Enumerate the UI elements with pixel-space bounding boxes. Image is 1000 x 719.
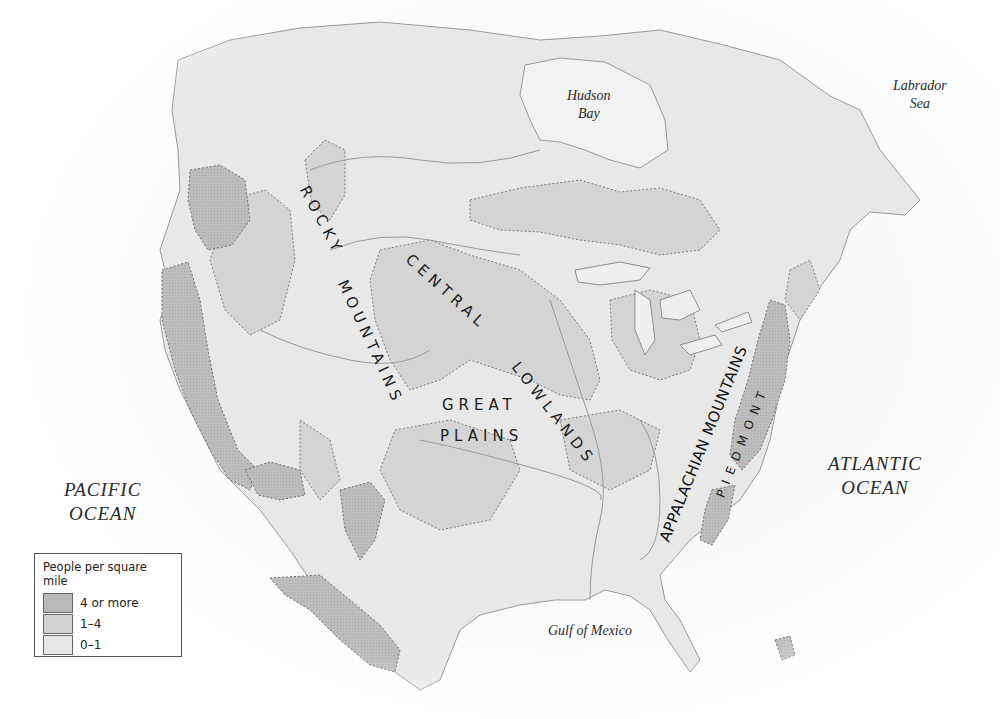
legend-item-medium: 1–4 xyxy=(43,613,173,634)
legend-item-low: 0–1 xyxy=(43,634,173,655)
legend-label-high: 4 or more xyxy=(80,596,139,610)
legend-swatch-high xyxy=(43,593,73,613)
legend: People per square mile 4 or more 1–4 0–1 xyxy=(34,553,182,657)
legend-swatch-medium xyxy=(43,614,73,634)
legend-label-low: 0–1 xyxy=(80,638,101,652)
legend-label-medium: 1–4 xyxy=(80,617,101,631)
legend-title: People per square mile xyxy=(43,560,173,588)
legend-swatch-low xyxy=(43,635,73,655)
legend-item-high: 4 or more xyxy=(43,592,173,613)
